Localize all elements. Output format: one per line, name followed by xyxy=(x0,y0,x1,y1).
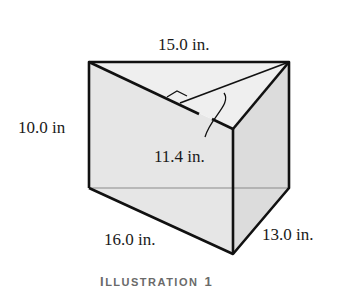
figure-caption: ILLUSTRATION1 xyxy=(100,274,213,289)
prism-diagram: 15.0 in. 10.0 in 11.4 in. 16.0 in. 13.0 … xyxy=(0,0,362,296)
top-edge-label: 15.0 in. xyxy=(158,35,209,54)
bottom-right-edge-label: 13.0 in. xyxy=(262,225,313,244)
altitude-label: 11.4 in. xyxy=(154,147,205,166)
bottom-left-edge-label: 16.0 in. xyxy=(104,230,155,249)
height-label: 10.0 in xyxy=(18,118,66,137)
